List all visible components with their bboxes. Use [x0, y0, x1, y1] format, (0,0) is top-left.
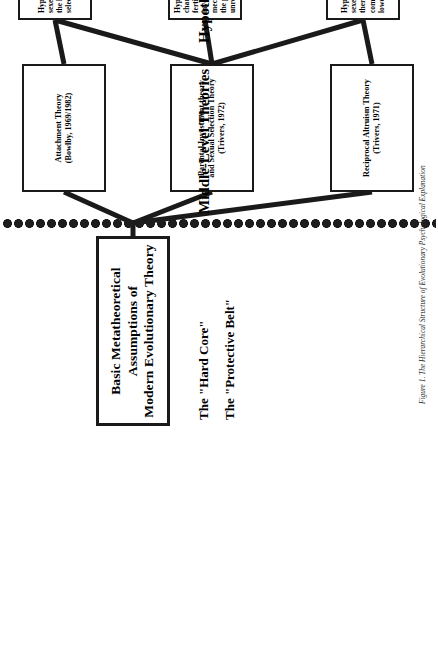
- root-node-metatheoretical-assumptions: Basic Metatheoretical Assumptions of Mod…: [96, 236, 170, 426]
- parental-line-3: (Trivers, 1972): [217, 102, 226, 153]
- protective-belt-divider: [2, 219, 436, 228]
- node-hypothesis-3-text: Hypothesis 3: In species where the sexes…: [337, 0, 389, 18]
- node-reciprocal-altruism-theory-text: Reciprocal Altruism Theory (Trivers, 197…: [360, 75, 384, 181]
- root-line-1: Basic Metatheoretical: [108, 267, 123, 394]
- band-label-hard-core: The "Hard Core": [196, 321, 212, 420]
- node-reciprocal-altruism-theory: Reciprocal Altruism Theory (Trivers, 197…: [330, 64, 414, 192]
- node-hypothesis-3: Hypothesis 3: In species where the sexes…: [326, 0, 400, 20]
- band-label-middle-level-theories: Middle-Level Theories: [196, 69, 213, 214]
- root-line-2: Assumptions of: [125, 286, 140, 376]
- node-hypothesis-1-text: Hypothesis 1: In species where the sexes…: [34, 0, 77, 18]
- reciprocal-line-1: Reciprocal Altruism Theory: [362, 79, 371, 177]
- node-attachment-theory: Attachment Theory (Bowlby, 1969/1982): [22, 64, 106, 192]
- attachment-line-1: Attachment Theory: [54, 94, 63, 163]
- reciprocal-line-2: (Trivers, 1971): [372, 102, 381, 153]
- band-label-protective-belt: The "Protective Belt": [222, 299, 238, 420]
- root-line-3: Modern Evolutionary Theory: [141, 244, 156, 417]
- figure-canvas: The "Hard Core" The "Protective Belt" Mi…: [0, 0, 438, 438]
- diagram-stage: The "Hard Core" The "Protective Belt" Mi…: [0, 0, 438, 438]
- figure-caption: Figure 1. The Hierarchical Structure of …: [418, 0, 427, 404]
- node-attachment-theory-text: Attachment Theory (Bowlby, 1969/1982): [52, 89, 76, 168]
- root-node-text: Basic Metatheoretical Assumptions of Mod…: [106, 240, 159, 421]
- attachment-line-2: (Bowlby, 1969/1982): [64, 93, 73, 164]
- node-hypothesis-1: Hypothesis 1: In species where the sexes…: [18, 0, 92, 20]
- band-label-hypotheses: Hypotheses: [196, 0, 213, 43]
